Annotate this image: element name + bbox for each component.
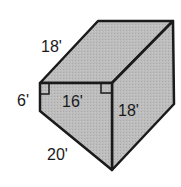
label-top-edge: 18' (41, 38, 62, 55)
label-bottom-edge: 20' (47, 146, 68, 163)
label-front-top: 16' (62, 93, 83, 110)
prism-diagram: 18' 6' 16' 18' 20' (0, 0, 181, 187)
label-front-right: 18' (118, 102, 139, 119)
label-left-height: 6' (17, 92, 29, 109)
